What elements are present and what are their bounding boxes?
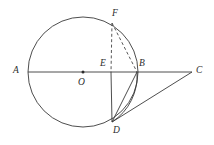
segment-f-b <box>112 23 137 72</box>
point-label-a: A <box>13 66 19 76</box>
point-label-e: E <box>100 59 106 69</box>
geometry-canvas <box>0 0 214 145</box>
point-label-d: D <box>113 126 120 136</box>
segment-e-d <box>111 72 112 122</box>
point-label-o: O <box>78 78 85 88</box>
point-label-f: F <box>112 9 118 19</box>
center-point-marker <box>82 71 85 74</box>
segment-f-e <box>111 23 112 72</box>
point-label-c: C <box>196 66 202 76</box>
geometry-figure: A O E B C F D <box>0 0 214 145</box>
point-label-b: B <box>139 59 145 69</box>
